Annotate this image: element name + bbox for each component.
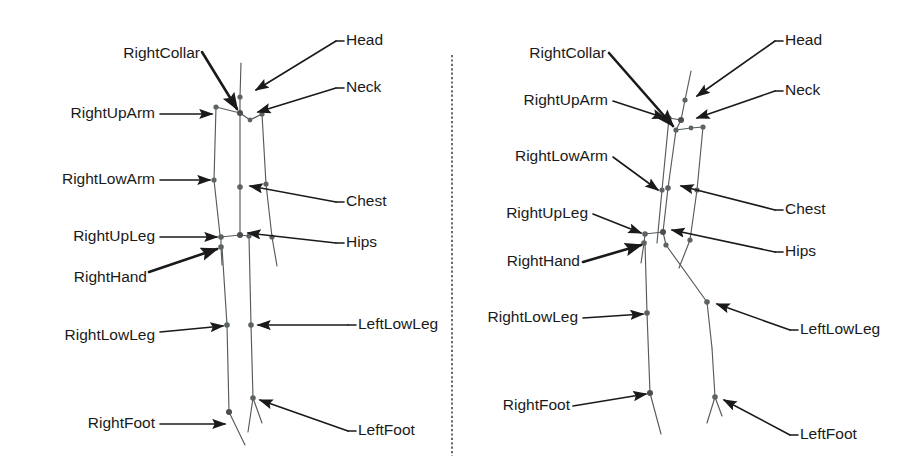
label-rightfoot: RightFoot	[88, 414, 156, 431]
leader-rightlowleg-2	[583, 314, 643, 318]
label-rightlowarm-2: RightLowArm	[515, 147, 608, 164]
label-righthand: RightHand	[74, 268, 147, 285]
joint-rightupleg-2	[642, 231, 648, 237]
leader-rightlowleg	[160, 326, 223, 332]
joint-leftlowleg-2	[704, 299, 710, 305]
label-head-2: Head	[785, 31, 822, 48]
label-hips-2: Hips	[785, 242, 816, 259]
joint-leftfoot	[250, 395, 256, 401]
label-rightuparm: RightUpArm	[71, 104, 155, 121]
leader-neck	[258, 88, 336, 112]
joint-rightlowarm-2	[659, 187, 664, 192]
joint-rightcollar-2	[673, 127, 678, 132]
joint-head	[237, 94, 242, 99]
label-rightfoot-2: RightFoot	[503, 396, 571, 413]
leader-leftlowleg-2	[717, 304, 790, 330]
joint-rightfoot	[226, 409, 232, 415]
label-rightcollar-2: RightCollar	[529, 44, 606, 61]
joint-leftlowleg	[248, 322, 254, 328]
label-rightupleg-2: RightUpLeg	[506, 204, 588, 221]
label-rightlowleg-2: RightLowLeg	[488, 308, 578, 325]
joint-lefthand-2	[687, 237, 692, 242]
label-chest-2: Chest	[785, 200, 826, 217]
joint-leftuparm	[259, 111, 264, 116]
joint-rightuparm	[213, 104, 218, 109]
skeleton-figure: RightCollar RightUpArm RightLowArm Right…	[0, 0, 906, 473]
label-rightcollar: RightCollar	[123, 44, 200, 61]
leader-neck-2	[697, 91, 775, 118]
label-hips: Hips	[346, 233, 377, 250]
leader-leftfoot-2	[724, 400, 790, 435]
label-leftlowleg: LeftLowLeg	[358, 315, 438, 332]
joint-leftcollar-2	[689, 126, 694, 131]
label-rightuparm-2: RightUpArm	[524, 91, 608, 108]
leader-hips	[248, 233, 336, 243]
label-rightlowleg: RightLowLeg	[65, 326, 155, 343]
right-panel-labels: RightCollar RightUpArm RightLowArm Right…	[488, 31, 881, 442]
leader-rightcollar	[202, 52, 237, 109]
label-chest: Chest	[346, 192, 387, 209]
joint-head-2	[682, 97, 687, 102]
joint-neck-2	[678, 117, 684, 123]
leader-rightlowarm-2	[613, 157, 658, 190]
joint-chest-2	[665, 185, 671, 191]
leader-head	[256, 41, 336, 90]
joint-chest	[237, 184, 243, 190]
leader-rightcollar-2	[609, 53, 673, 126]
label-neck-2: Neck	[785, 81, 821, 98]
figure-canvas: RightCollar RightUpArm RightLowArm Right…	[0, 0, 906, 473]
joint-leftupleg	[246, 233, 251, 238]
leader-head-2	[697, 41, 775, 96]
joint-leftupleg-2	[663, 242, 668, 247]
right-skeleton-body	[641, 71, 722, 434]
leader-hips-2	[672, 230, 775, 252]
leader-righthand-2	[583, 245, 641, 262]
label-leftfoot: LeftFoot	[358, 421, 416, 438]
leader-righthand	[149, 249, 217, 272]
leader-rightupleg-2	[593, 214, 641, 233]
joint-leftcollar	[248, 118, 253, 123]
label-righthand-2: RightHand	[507, 252, 580, 269]
label-neck: Neck	[346, 78, 382, 95]
label-leftlowleg-2: LeftLowLeg	[800, 320, 880, 337]
joint-hips	[237, 232, 243, 238]
leader-rightfoot-2	[573, 394, 646, 406]
joint-rightlowleg	[224, 322, 230, 328]
label-rightupleg: RightUpLeg	[73, 227, 155, 244]
joint-hips-2	[660, 229, 666, 235]
joint-leftlowarm	[263, 181, 268, 186]
joint-righthand	[218, 244, 224, 250]
label-leftfoot-2: LeftFoot	[800, 425, 858, 442]
label-head: Head	[346, 31, 383, 48]
joint-leftfoot-2	[712, 394, 718, 400]
joint-rightlowarm	[211, 177, 216, 182]
joint-rightfoot-2	[647, 390, 653, 396]
joint-neck	[237, 110, 243, 116]
joint-rightupleg	[218, 234, 224, 240]
leader-chest	[250, 186, 336, 202]
leader-leftfoot	[260, 400, 348, 431]
joint-leftuparm-2	[700, 124, 705, 129]
label-rightlowarm: RightLowArm	[62, 170, 155, 187]
joint-rightlowleg-2	[644, 310, 650, 316]
left-skeleton-body	[211, 63, 277, 445]
